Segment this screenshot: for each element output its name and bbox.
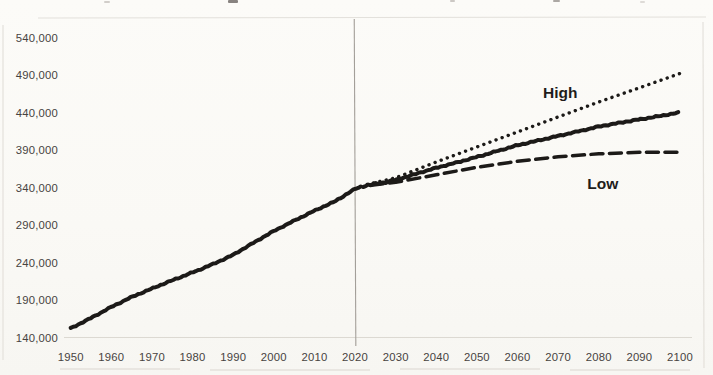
y-tick-390000: 390,000 xyxy=(16,144,58,156)
cropped-title-fragment xyxy=(553,0,560,2)
right-edge-scan-line xyxy=(703,22,704,368)
cropped-title-fragment xyxy=(640,1,645,3)
x-tick-2050: 2050 xyxy=(464,351,490,363)
divider-line-2020 xyxy=(354,19,356,346)
x-tick-2020: 2020 xyxy=(342,351,368,363)
x-tick-2000: 2000 xyxy=(261,351,287,363)
x-tick-2010: 2010 xyxy=(301,351,327,363)
y-tick-290000: 290,000 xyxy=(16,219,58,231)
x-tick-2060: 2060 xyxy=(505,351,531,363)
series-line-high-projection xyxy=(367,74,680,185)
x-tick-2030: 2030 xyxy=(383,351,409,363)
cropped-title-fragment xyxy=(450,0,455,2)
low-annotation-label: Low xyxy=(587,175,619,192)
x-tick-2100: 2100 xyxy=(667,351,693,363)
x-tick-1960: 1960 xyxy=(98,351,124,363)
x-tick-1980: 1980 xyxy=(180,351,206,363)
y-axis-tick-labels: 540,000490,000440,000390,000340,000290,0… xyxy=(16,32,58,344)
x-tick-1950: 1950 xyxy=(58,351,84,363)
series-line-historical xyxy=(71,187,361,328)
y-tick-190000: 190,000 xyxy=(16,294,58,306)
x-tick-2080: 2080 xyxy=(586,351,612,363)
x-tick-2090: 2090 xyxy=(626,351,652,363)
series-line-middle-projection xyxy=(363,112,678,187)
y-tick-490000: 490,000 xyxy=(16,69,58,81)
cropped-title-fragment xyxy=(104,1,110,3)
data-series-lines xyxy=(71,74,680,328)
x-axis-tick-labels: 1950196019701980199020002010202020302040… xyxy=(58,351,693,363)
top-scan-line xyxy=(38,17,706,18)
x-tick-1990: 1990 xyxy=(220,351,246,363)
population-projection-chart: 540,000490,000440,000390,000340,000290,0… xyxy=(0,0,713,375)
x-tick-2070: 2070 xyxy=(545,351,571,363)
cropped-title-fragment xyxy=(228,0,238,3)
y-tick-240000: 240,000 xyxy=(16,257,58,269)
y-tick-140000: 140,000 xyxy=(16,332,58,344)
y-tick-440000: 440,000 xyxy=(16,107,58,119)
scanned-chart-page: 540,000490,000440,000390,000340,000290,0… xyxy=(0,0,713,375)
x-tick-2040: 2040 xyxy=(423,351,449,363)
high-annotation-label: High xyxy=(543,84,577,101)
y-tick-340000: 340,000 xyxy=(16,182,58,194)
x-tick-1970: 1970 xyxy=(139,351,165,363)
y-tick-540000: 540,000 xyxy=(16,32,58,44)
